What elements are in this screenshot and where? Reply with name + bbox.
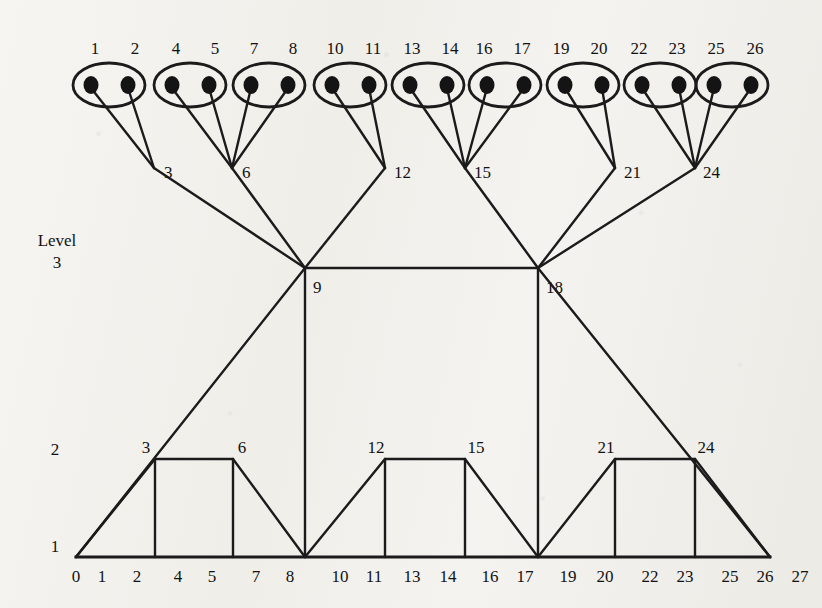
leaf-label-8: 8 bbox=[289, 39, 298, 58]
level-profile bbox=[76, 459, 770, 557]
leaf-edge-1-3 bbox=[91, 88, 154, 168]
x-tick-26: 26 bbox=[757, 567, 774, 586]
leaf-label-13: 13 bbox=[404, 39, 421, 58]
leaf-label-4: 4 bbox=[172, 39, 181, 58]
node-label-12: 12 bbox=[394, 163, 411, 182]
tree-profile-figure: Level 3 2 1 bbox=[0, 0, 822, 608]
leaf-label-19: 19 bbox=[553, 39, 570, 58]
leaf-dot-5 bbox=[202, 76, 217, 94]
x-tick-19: 19 bbox=[560, 567, 577, 586]
peak-label-15: 15 bbox=[468, 438, 485, 457]
leaf-dot-2 bbox=[121, 76, 136, 94]
node-label-9: 9 bbox=[313, 278, 322, 297]
x-tick-2: 2 bbox=[133, 567, 142, 586]
x-tick-20: 20 bbox=[597, 567, 614, 586]
x-tick-11: 11 bbox=[366, 567, 382, 586]
peak-label-3: 3 bbox=[142, 438, 151, 457]
leaf-label-1: 1 bbox=[91, 39, 100, 58]
leaf-dot-10 bbox=[325, 76, 340, 94]
x-tick-23: 23 bbox=[677, 567, 694, 586]
peak-label-6: 6 bbox=[238, 438, 247, 457]
node-label-21: 21 bbox=[624, 163, 641, 182]
leaf-dot-7 bbox=[244, 76, 259, 94]
leaf-dot-14 bbox=[440, 76, 455, 94]
leaf-dot-26 bbox=[744, 76, 759, 94]
leaf-label-23: 23 bbox=[669, 39, 686, 58]
edge-6-9 bbox=[232, 168, 305, 268]
peak-label-21: 21 bbox=[598, 438, 615, 457]
leaf-edge-4-6 bbox=[172, 88, 232, 168]
x-tick-1: 1 bbox=[98, 567, 107, 586]
leaf-label-26: 26 bbox=[747, 39, 764, 58]
x-tick-16: 16 bbox=[482, 567, 499, 586]
leaf-label-group: 1 2 4 5 7 8 10 11 13 14 16 17 19 20 22 2… bbox=[91, 39, 764, 58]
leaf-label-22: 22 bbox=[631, 39, 648, 58]
leaf-dot-19 bbox=[558, 76, 573, 94]
leaf-edge-2-3 bbox=[128, 88, 154, 168]
leaf-dot-17 bbox=[517, 76, 532, 94]
x-tick-17: 17 bbox=[517, 567, 535, 586]
level-word-label: Level bbox=[38, 231, 77, 250]
x-tick-5: 5 bbox=[208, 567, 217, 586]
x-tick-25: 25 bbox=[722, 567, 739, 586]
x-tick-13: 13 bbox=[404, 567, 421, 586]
level-1-label: 1 bbox=[51, 537, 60, 556]
leaf-dot-11 bbox=[362, 76, 377, 94]
x-tick-labels: 0 1 2 4 5 7 8 10 11 13 14 16 17 19 20 22… bbox=[72, 567, 809, 586]
leaf-dot-group bbox=[84, 76, 759, 94]
leaf-edge-17-15 bbox=[465, 88, 524, 168]
x-tick-27: 27 bbox=[792, 567, 810, 586]
leaf-label-16: 16 bbox=[476, 39, 493, 58]
edge-24-18 bbox=[538, 168, 695, 268]
outer-triangle-sides bbox=[76, 268, 770, 557]
figure-page: Level 3 2 1 bbox=[0, 0, 822, 608]
x-tick-4: 4 bbox=[174, 567, 183, 586]
profile-hump-1 bbox=[76, 459, 305, 557]
profile-hump-3 bbox=[538, 459, 770, 557]
leaf-dot-20 bbox=[595, 76, 610, 94]
leaf-label-25: 25 bbox=[708, 39, 725, 58]
leaf-label-11: 11 bbox=[365, 39, 381, 58]
leaf-dot-1 bbox=[84, 76, 99, 94]
edge-12-9 bbox=[305, 168, 385, 268]
leaf-dot-22 bbox=[635, 76, 650, 94]
peak-label-24: 24 bbox=[698, 438, 716, 457]
leaf-dot-25 bbox=[707, 76, 722, 94]
edge-3-9 bbox=[154, 168, 305, 268]
leaf-label-10: 10 bbox=[327, 39, 344, 58]
leaf-edge-5-6 bbox=[209, 88, 232, 168]
leaf-edges bbox=[91, 88, 751, 168]
leaf-label-5: 5 bbox=[211, 39, 220, 58]
x-tick-0: 0 bbox=[72, 567, 81, 586]
leaf-label-2: 2 bbox=[131, 39, 140, 58]
x-tick-10: 10 bbox=[332, 567, 349, 586]
profile-peak-labels: 3 6 12 15 21 24 bbox=[142, 438, 715, 457]
node-label-24: 24 bbox=[703, 163, 721, 182]
x-tick-22: 22 bbox=[642, 567, 659, 586]
x-tick-14: 14 bbox=[440, 567, 458, 586]
leaf-dot-23 bbox=[672, 76, 687, 94]
leaf-dot-4 bbox=[165, 76, 180, 94]
level-label-group: Level 3 2 1 bbox=[38, 231, 77, 556]
x-tick-8: 8 bbox=[286, 567, 295, 586]
leaf-dot-16 bbox=[480, 76, 495, 94]
internal-edges bbox=[154, 168, 695, 268]
leaf-label-14: 14 bbox=[442, 39, 460, 58]
profile-hump-2 bbox=[305, 459, 538, 557]
level-3-value: 3 bbox=[53, 253, 62, 272]
x-tick-7: 7 bbox=[252, 567, 261, 586]
leaf-edge-16-15 bbox=[465, 88, 487, 168]
leaf-label-20: 20 bbox=[591, 39, 608, 58]
peak-label-12: 12 bbox=[368, 438, 385, 457]
edge-15-18 bbox=[465, 168, 538, 268]
node-label-3: 3 bbox=[164, 163, 173, 182]
edge-21-18 bbox=[538, 168, 615, 268]
leaf-dot-8 bbox=[281, 76, 296, 94]
leaf-dot-13 bbox=[403, 76, 418, 94]
leaf-label-17: 17 bbox=[514, 39, 532, 58]
node-label-6: 6 bbox=[242, 163, 251, 182]
node-label-15: 15 bbox=[474, 163, 491, 182]
level-2-label: 2 bbox=[51, 440, 60, 459]
leaf-label-7: 7 bbox=[250, 39, 259, 58]
